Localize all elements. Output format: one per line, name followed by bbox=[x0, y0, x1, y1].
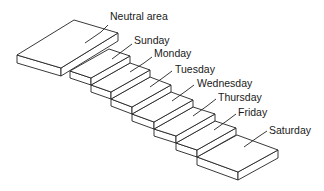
label-wednesday: Wednesday bbox=[197, 77, 253, 89]
label-neutral-area: Neutral area bbox=[110, 10, 168, 22]
label-thursday: Thursday bbox=[218, 91, 263, 103]
label-saturday: Saturday bbox=[269, 124, 312, 136]
label-sunday: Sunday bbox=[134, 34, 170, 46]
label-monday: Monday bbox=[154, 47, 192, 59]
staircase-diagram: Neutral area Sunday Monday Tuesday Wedne… bbox=[0, 0, 324, 191]
label-friday: Friday bbox=[238, 106, 268, 118]
label-tuesday: Tuesday bbox=[175, 63, 216, 75]
